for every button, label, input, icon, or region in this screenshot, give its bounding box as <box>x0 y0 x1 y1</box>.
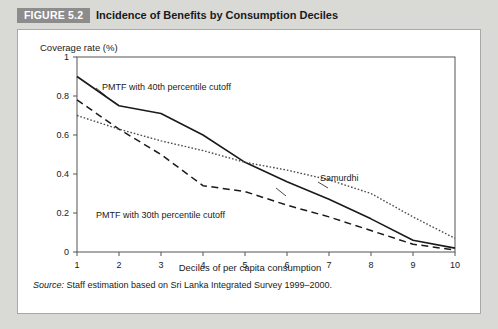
chart-series-line <box>77 100 455 250</box>
annotation-samurdhi: Samurdhi <box>320 173 359 183</box>
y-tick-label: 0.2 <box>56 208 69 218</box>
y-tick-label: 0 <box>64 247 69 257</box>
figure-number-badge: FIGURE 5.2 <box>17 8 90 23</box>
x-axis-label: Deciles of per capita consumption <box>18 262 482 273</box>
y-tick-label: 0.6 <box>56 130 69 140</box>
annotation-pmtf40: PMTF with 40th percentile cutoff <box>102 82 231 92</box>
y-tick-label: 0.4 <box>56 169 69 179</box>
source-text: Staff estimation based on Sri Lanka Inte… <box>64 280 332 290</box>
figure-header-strip: FIGURE 5.2 Incidence of Benefits by Cons… <box>0 0 498 29</box>
figure-title: Incidence of Benefits by Consumption Dec… <box>96 8 338 23</box>
source-note: Source: Staff estimation based on Sri La… <box>33 280 332 290</box>
figure-inner-card: Coverage rate (%) 00.20.40.60.8112345678… <box>17 29 481 314</box>
y-tick-label: 1 <box>64 52 69 62</box>
annotation-pmtf30: PMTF with 30th percentile cutoff <box>96 210 225 220</box>
figure-plate: Coverage rate (%) 00.20.40.60.8112345678… <box>0 29 498 329</box>
figure-container: FIGURE 5.2 Incidence of Benefits by Cons… <box>0 0 498 329</box>
chart-series-line <box>77 77 455 249</box>
annotation-leader-line <box>276 188 286 196</box>
y-tick-label: 0.8 <box>56 91 69 101</box>
source-label: Source: <box>33 280 64 290</box>
